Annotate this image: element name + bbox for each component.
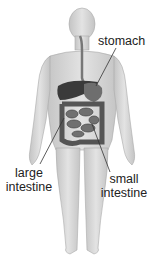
- stomach-label-text: stomach: [98, 34, 145, 48]
- large-intestine-label-line2: intestine: [4, 180, 54, 194]
- small-intestine-label-line2: intestine: [99, 186, 149, 200]
- large-intestine-label-line1: large: [4, 166, 54, 180]
- stomach-label: stomach: [98, 34, 145, 48]
- large-intestine-label: large intestine: [4, 166, 54, 194]
- small-intestine-label-line1: small: [99, 172, 149, 186]
- digestive-system-diagram: stomach large intestine small intestine: [0, 0, 156, 264]
- small-intestine-label: small intestine: [99, 172, 149, 200]
